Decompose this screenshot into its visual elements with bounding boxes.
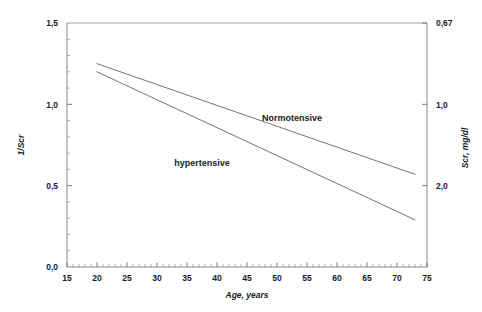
x-tick-label: 70 <box>392 273 402 283</box>
y-left-tick-label: 1,0 <box>46 100 58 110</box>
x-tick-label: 40 <box>212 273 222 283</box>
x-tick-label: 35 <box>182 273 192 283</box>
series-label-normotensive: Normotensive <box>262 113 322 123</box>
y-right-tick-label: 2,0 <box>436 181 448 191</box>
y-left-tick-label: 0,0 <box>46 262 58 272</box>
x-tick-label: 45 <box>242 273 252 283</box>
x-tick-label: 65 <box>362 273 372 283</box>
x-tick-label: 75 <box>422 273 432 283</box>
x-tick-label: 50 <box>272 273 282 283</box>
y-left-tick-label: 0,5 <box>46 181 58 191</box>
x-tick-label: 60 <box>332 273 342 283</box>
x-tick-label: 55 <box>302 273 312 283</box>
x-axis-title: Age, years <box>225 290 269 300</box>
y-right-tick-label: 1,0 <box>436 100 448 110</box>
x-tick-label: 15 <box>62 273 72 283</box>
series-label-hypertensive: hypertensive <box>174 158 230 168</box>
x-tick-label: 30 <box>152 273 162 283</box>
chart-container: 15202530354045505560657075 0,00,51,01,5 … <box>0 0 482 312</box>
scr-vs-age-line-chart: 15202530354045505560657075 0,00,51,01,5 … <box>0 0 482 312</box>
x-tick-label: 20 <box>92 273 102 283</box>
y-right-tick-label: 0,67 <box>436 18 453 28</box>
x-tick-label: 25 <box>122 273 132 283</box>
y-axis-title-left: 1/Scr <box>16 134 26 155</box>
y-left-tick-label: 1,5 <box>46 18 58 28</box>
y-axis-title-right: Scr, mg/dl <box>460 127 470 168</box>
